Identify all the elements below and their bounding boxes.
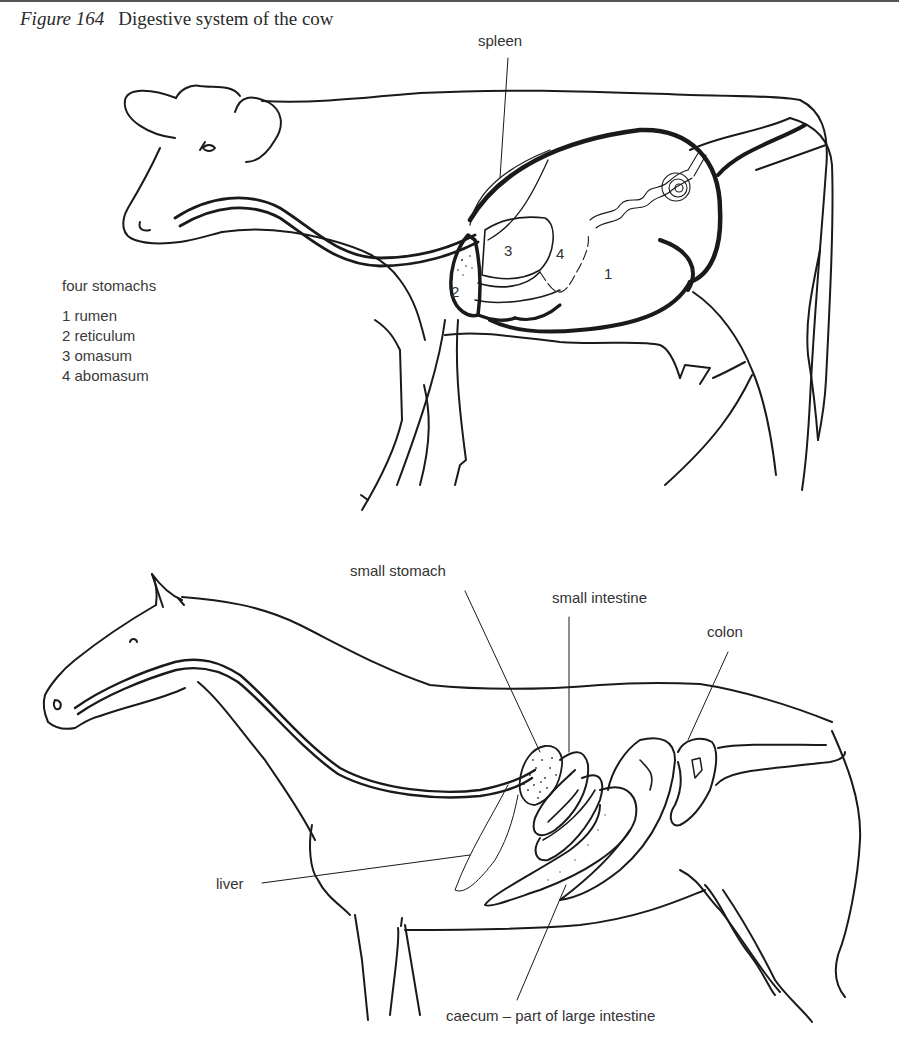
label-caecum: caecum – part of large intestine — [446, 1008, 655, 1023]
horse-oesophagus — [75, 660, 535, 798]
colon-pointer — [688, 652, 728, 740]
caecum-pointer — [517, 885, 566, 1000]
small-stomach-pointer — [465, 591, 540, 752]
horse-organs — [455, 738, 845, 905]
label-colon: colon — [707, 624, 743, 639]
horse-pointer-lines — [262, 591, 728, 1000]
horse-diagram — [0, 0, 899, 1062]
label-small-stomach: small stomach — [350, 563, 446, 578]
liver-pointer — [262, 855, 470, 883]
label-small-intestine: small intestine — [552, 590, 647, 605]
label-liver: liver — [216, 876, 244, 891]
